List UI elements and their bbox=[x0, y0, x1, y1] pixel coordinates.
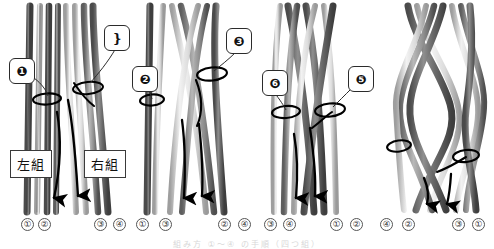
callout-badge-2-label: ❶ bbox=[16, 65, 27, 78]
panel-2-number-2: ③ bbox=[159, 218, 172, 231]
panel-1-number-2: ② bbox=[38, 218, 51, 231]
callout-badge-2[interactable]: ❶ bbox=[9, 58, 35, 84]
panel-2-number-1: ① bbox=[136, 218, 149, 231]
callout-badge-3[interactable]: ❸ bbox=[226, 28, 252, 54]
panel-1-strands bbox=[27, 6, 108, 212]
callout-badge-1[interactable]: ❵ bbox=[104, 25, 130, 51]
callout-badge-4-label: ❷ bbox=[139, 73, 150, 86]
panel-1-number-4: ④ bbox=[113, 218, 126, 231]
right-group-label-text: 右組 bbox=[91, 157, 119, 172]
callout-badge-5[interactable]: ❺ bbox=[348, 66, 374, 92]
left-group-label-text: 左組 bbox=[17, 157, 45, 172]
panel-4-strands bbox=[386, 6, 484, 210]
callout-badge-6[interactable]: ❻ bbox=[262, 70, 288, 96]
right-group-label: 右組 bbox=[84, 150, 126, 178]
panel-4-number-4: ① bbox=[472, 218, 485, 231]
callout-badge-3-label: ❸ bbox=[233, 35, 244, 48]
callout-badge-1-label: ❵ bbox=[112, 32, 123, 45]
panel-3-number-3: ① bbox=[330, 218, 343, 231]
panel-3-number-2: ④ bbox=[283, 218, 296, 231]
callout-badge-4[interactable]: ❷ bbox=[132, 66, 158, 92]
panel-4-number-2: ② bbox=[402, 218, 415, 231]
panel-4-number-3: ③ bbox=[452, 218, 465, 231]
callout-badge-5-label: ❺ bbox=[355, 73, 366, 86]
panel-1-number-1: ① bbox=[21, 218, 34, 231]
panel-2-strands bbox=[140, 6, 228, 212]
panel-3-number-4: ② bbox=[350, 218, 363, 231]
panel-2-number-4: ④ bbox=[238, 218, 251, 231]
left-group-label: 左組 bbox=[10, 150, 52, 178]
panel-3-number-1: ③ bbox=[264, 218, 277, 231]
panel-3-strands bbox=[272, 6, 346, 212]
figure-caption: 組み方 ①～④ の手順（四つ組） bbox=[0, 238, 494, 249]
panel-1-number-3: ③ bbox=[94, 218, 107, 231]
panel-4-number-1: ④ bbox=[380, 218, 393, 231]
panel-2-number-3: ② bbox=[218, 218, 231, 231]
callout-badge-6-label: ❻ bbox=[269, 77, 280, 90]
